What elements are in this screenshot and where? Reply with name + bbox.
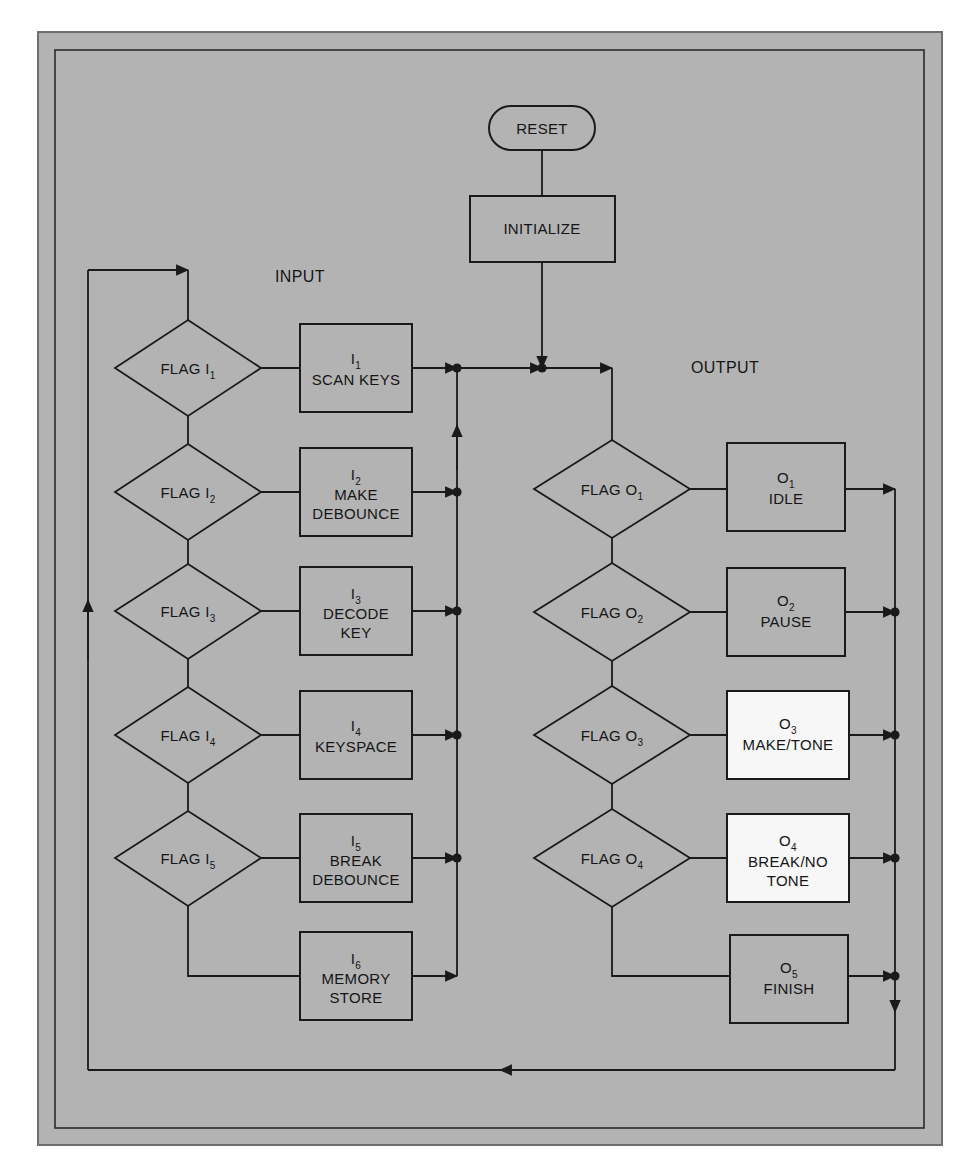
junction-dot-i2 — [452, 487, 461, 496]
o4-line-2: TONE — [767, 872, 810, 889]
flag-o3-label: FLAG O — [581, 727, 638, 744]
o5-process: O5 FINISH — [730, 935, 848, 1023]
flag-o4-sub: 4 — [637, 860, 643, 871]
flag-o2-sub: 2 — [637, 614, 643, 625]
o2-line-1: PAUSE — [760, 613, 811, 630]
flag-i5-label: FLAG I — [160, 850, 209, 867]
i3-line-1: DECODE — [323, 605, 389, 622]
i3-line-2: KEY — [341, 624, 372, 641]
i4-process: I4 KEYSPACE — [300, 691, 412, 779]
o2-sub: 2 — [789, 602, 795, 613]
i1-process: I1 SCAN KEYS — [300, 324, 412, 412]
i6-process: I6 MEMORY STORE — [300, 932, 412, 1020]
flowchart-diagram: INPUT OUTPUT RESET INITIALIZE FLAG I1 FL… — [0, 0, 967, 1172]
o5-tag: O — [780, 959, 792, 976]
junction-dot-o2 — [890, 607, 899, 616]
o4-process: O4 BREAK/NO TONE — [727, 814, 849, 902]
o3-process: O3 MAKE/TONE — [727, 691, 849, 779]
junction-dot-o3 — [890, 730, 899, 739]
flag-o3-sub: 3 — [637, 737, 643, 748]
i1-line-1: SCAN KEYS — [312, 371, 401, 388]
i4-sub: 4 — [355, 727, 361, 738]
o1-line-1: IDLE — [769, 490, 804, 507]
initialize-process-label: INITIALIZE — [503, 220, 580, 237]
flag-o2-label: FLAG O — [581, 604, 638, 621]
i5-line-2: DEBOUNCE — [312, 871, 399, 888]
o1-process: O1 IDLE — [727, 443, 845, 531]
i2-line-1: MAKE — [334, 486, 378, 503]
i2-line-2: DEBOUNCE — [312, 505, 399, 522]
flag-i4-sub: 4 — [210, 737, 216, 748]
flag-i5-sub: 5 — [210, 860, 216, 871]
o3-line-1: MAKE/TONE — [743, 736, 834, 753]
flag-i3-sub: 3 — [210, 613, 216, 624]
i5-line-1: BREAK — [330, 852, 382, 869]
flag-i4-label: FLAG I — [160, 727, 209, 744]
junction-dot-i5 — [452, 853, 461, 862]
o1-sub: 1 — [789, 479, 795, 490]
flag-i1-label: FLAG I — [160, 360, 209, 377]
flag-o4-label: FLAG O — [581, 850, 638, 867]
o3-tag: O — [779, 715, 791, 732]
i6-line-2: STORE — [330, 989, 383, 1006]
flag-i2-sub: 2 — [210, 494, 216, 505]
o2-tag: O — [777, 592, 789, 609]
i3-process: I3 DECODE KEY — [300, 567, 412, 655]
input-section-label: INPUT — [275, 268, 325, 285]
junction-dot-o5 — [890, 971, 899, 980]
flag-i1-sub: 1 — [210, 370, 216, 381]
o4-line-1: BREAK/NO — [748, 853, 828, 870]
i2-process: I2 MAKE DEBOUNCE — [300, 448, 412, 536]
i5-process: I5 BREAK DEBOUNCE — [300, 814, 412, 902]
i1-sub: 1 — [355, 360, 361, 371]
o5-sub: 5 — [792, 969, 798, 980]
o2-process: O2 PAUSE — [727, 568, 845, 656]
o4-tag: O — [779, 832, 791, 849]
flag-o1-sub: 1 — [637, 491, 643, 502]
reset-terminator-label: RESET — [516, 120, 568, 137]
junction-dot-i4 — [452, 730, 461, 739]
junction-dot-o4 — [890, 853, 899, 862]
junction-dot-input-bus — [452, 363, 461, 372]
flag-i2-label: FLAG I — [160, 484, 209, 501]
o4-sub: 4 — [791, 842, 797, 853]
output-section-label: OUTPUT — [691, 359, 759, 376]
figure-canvas: INPUT OUTPUT RESET INITIALIZE FLAG I1 FL… — [0, 0, 967, 1172]
i6-line-1: MEMORY — [321, 970, 390, 987]
flag-i3-label: FLAG I — [160, 603, 209, 620]
junction-dot-initialize — [537, 363, 546, 372]
o5-line-1: FINISH — [764, 980, 815, 997]
o3-sub: 3 — [791, 725, 797, 736]
o1-tag: O — [777, 469, 789, 486]
flag-o1-label: FLAG O — [581, 481, 638, 498]
junction-dot-i3 — [452, 606, 461, 615]
i4-line-1: KEYSPACE — [315, 738, 397, 755]
